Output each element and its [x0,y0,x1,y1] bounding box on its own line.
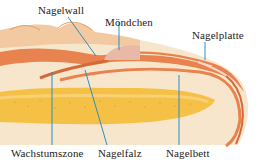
label-moendchen: Möndchen [105,17,153,28]
label-nagelplatte: Nagelplatte [192,30,244,41]
label-nagelfalz: Nagelfalz [98,148,142,159]
label-nagelwall: Nagelwall [38,5,84,16]
label-wachstumszone: Wachstumszone [11,148,84,159]
label-nagelbett: Nagelbett [166,148,210,159]
nail-anatomy-diagram: Nagelwall Möndchen Nagelplatte Wachstums… [0,0,260,162]
